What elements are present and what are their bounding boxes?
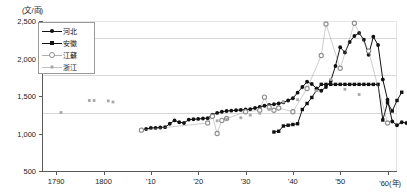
data-point xyxy=(286,124,289,127)
data-point xyxy=(400,91,403,94)
data-point xyxy=(277,106,281,110)
data-point xyxy=(220,118,224,122)
data-point xyxy=(310,96,313,99)
data-point xyxy=(139,128,143,132)
data-point xyxy=(353,34,357,38)
data-point xyxy=(249,114,252,117)
data-point xyxy=(277,102,281,106)
data-point xyxy=(334,64,338,68)
data-point xyxy=(352,21,356,25)
data-point xyxy=(381,118,384,121)
data-point xyxy=(291,110,295,114)
legend-marker-icon xyxy=(42,50,62,60)
data-point xyxy=(390,120,394,124)
data-point xyxy=(239,116,242,119)
legend-item-2[interactable]: 安徽 xyxy=(39,37,94,49)
data-point xyxy=(93,99,96,102)
legend-marker-icon xyxy=(42,62,62,72)
data-point xyxy=(168,122,172,126)
data-point xyxy=(158,126,162,130)
data-point xyxy=(144,127,148,131)
data-point xyxy=(381,78,385,82)
data-point xyxy=(315,89,318,92)
data-point xyxy=(220,110,224,114)
data-point xyxy=(300,85,304,89)
data-point xyxy=(344,88,347,91)
data-point xyxy=(353,83,356,86)
data-point xyxy=(112,101,115,104)
data-point xyxy=(107,99,110,102)
data-point xyxy=(310,82,314,86)
data-point xyxy=(348,83,351,86)
legend-marker-icon xyxy=(42,38,62,48)
data-point xyxy=(358,93,361,96)
data-point xyxy=(319,53,323,57)
legend-item-1[interactable]: 河北 xyxy=(39,25,94,37)
data-point xyxy=(296,98,299,101)
data-point xyxy=(296,122,299,125)
data-point xyxy=(282,101,285,104)
data-point xyxy=(338,66,342,70)
data-point xyxy=(253,106,257,110)
legend-label: 河北 xyxy=(62,26,77,36)
data-point xyxy=(60,111,63,114)
data-point xyxy=(187,118,191,122)
data-point xyxy=(343,83,346,86)
series-河北 xyxy=(140,31,407,132)
legend: 河北安徽江蘇浙江 xyxy=(38,22,95,74)
data-point xyxy=(371,35,375,39)
data-point xyxy=(215,111,219,115)
data-point xyxy=(395,123,399,127)
data-point xyxy=(291,123,294,126)
data-point xyxy=(258,112,261,115)
data-point xyxy=(305,102,308,105)
data-point xyxy=(305,86,309,90)
data-point xyxy=(357,83,360,86)
chart-container: (文/両) 2,5002,0001,5001,000500 17901800'1… xyxy=(0,0,407,196)
data-point xyxy=(296,91,300,95)
data-point xyxy=(282,124,285,127)
data-point xyxy=(206,116,210,120)
data-point xyxy=(262,95,266,99)
data-point xyxy=(291,96,295,100)
data-point xyxy=(192,117,196,121)
data-point xyxy=(234,108,238,112)
legend-label: 安徽 xyxy=(62,38,77,48)
data-point xyxy=(338,45,342,49)
data-point xyxy=(272,108,276,112)
data-point xyxy=(372,83,375,86)
data-point xyxy=(154,126,158,130)
legend-item-4[interactable]: 浙江 xyxy=(39,61,94,73)
data-point xyxy=(272,130,275,133)
data-point xyxy=(301,108,304,111)
data-point xyxy=(225,118,228,121)
data-point xyxy=(182,121,186,125)
data-point xyxy=(210,114,214,118)
legend-item-3[interactable]: 江蘇 xyxy=(39,49,94,61)
series-line xyxy=(141,23,387,133)
data-point xyxy=(229,109,233,113)
data-point xyxy=(277,130,280,133)
data-point xyxy=(334,83,337,86)
data-point xyxy=(367,83,370,86)
data-point xyxy=(329,83,332,86)
data-point xyxy=(319,89,323,93)
data-point xyxy=(286,99,290,103)
data-point xyxy=(196,117,200,121)
data-point xyxy=(362,83,365,86)
data-point xyxy=(201,117,205,121)
data-point xyxy=(216,119,219,122)
data-point xyxy=(177,120,181,124)
legend-label: 江蘇 xyxy=(62,50,77,60)
data-point xyxy=(243,110,247,114)
data-point xyxy=(206,121,210,125)
data-point xyxy=(376,43,380,47)
legend-marker-icon xyxy=(42,26,62,36)
data-point xyxy=(258,108,262,112)
data-point xyxy=(263,104,267,108)
data-point xyxy=(324,83,327,86)
data-point xyxy=(367,49,371,53)
data-point xyxy=(391,109,394,112)
data-point xyxy=(239,108,243,112)
data-point xyxy=(215,131,219,135)
